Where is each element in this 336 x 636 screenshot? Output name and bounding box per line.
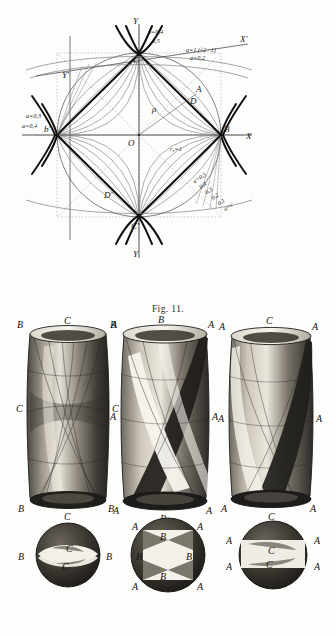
model-right-bot-label-2: A bbox=[309, 503, 317, 514]
model-left-top-bore bbox=[41, 330, 95, 341]
model-right-top-label-0: A bbox=[218, 321, 226, 332]
figure-11: Y Y X X' Y' O C C' B b' A D D' ρ r₀=1 bbox=[0, 8, 336, 308]
label-point-b-left: b' bbox=[44, 124, 52, 134]
label-point-b-right: B bbox=[224, 124, 230, 134]
model-right bbox=[229, 327, 313, 507]
figure-12: B C B C C B C B bbox=[0, 312, 336, 632]
inset-center-label-7: A bbox=[196, 581, 204, 592]
model-right-mid-label-1: A bbox=[315, 413, 323, 424]
figure-11-drawing: Y Y X X' Y' O C C' B b' A D D' ρ r₀=1 bbox=[0, 8, 336, 308]
inset-right-label-5: A bbox=[313, 561, 321, 572]
inset-right-label-3: A bbox=[313, 535, 321, 546]
annotation-left-a1: a=0,3 bbox=[26, 112, 41, 119]
curve-family-label-stack: a=0,5 0,4 0,3 0,2 0,1 a=c bbox=[192, 168, 234, 217]
inset-right-label-0: A bbox=[225, 535, 233, 546]
model-center-bot-label-0: A bbox=[112, 505, 120, 516]
inset-center-label-2: A bbox=[196, 521, 204, 532]
annotation-left-a2: a=0,4 bbox=[22, 122, 37, 129]
inset-center-label-1: B bbox=[160, 531, 166, 542]
inset-center-label-3: B bbox=[136, 551, 142, 562]
model-center-top-label-2: A bbox=[207, 319, 215, 330]
model-center bbox=[121, 325, 209, 510]
annotation-r0: r₀=1 bbox=[170, 145, 182, 152]
label-axis-x-right: X bbox=[245, 131, 252, 141]
model-left-top-label-0: B bbox=[17, 319, 23, 330]
model-left bbox=[27, 326, 109, 509]
inset-center-label-4: B bbox=[186, 551, 192, 562]
label-rho: ρ bbox=[151, 104, 157, 114]
figure-12-drawing: B C B C C B C B bbox=[0, 312, 336, 632]
plate-page: • o o • bbox=[0, 0, 336, 636]
model-right-mid-label-0: A bbox=[217, 413, 225, 424]
rho-segment bbox=[139, 94, 196, 135]
model-center-top-label-0: A bbox=[110, 319, 118, 330]
model-right-top-bore bbox=[243, 332, 299, 343]
inset-left-label-1: C bbox=[66, 543, 73, 554]
label-point-a-upper: A bbox=[195, 84, 202, 94]
label-point-c-top: C bbox=[133, 55, 140, 65]
label-axis-y-prime: Y' bbox=[62, 70, 70, 80]
inset-right-label-2: C bbox=[266, 559, 273, 570]
label-axis-x-prime: X' bbox=[239, 34, 248, 44]
inset-right-label-1: C bbox=[268, 545, 275, 556]
annotation-upper-a: a=0,2 bbox=[190, 54, 205, 61]
model-right-bot-label-1: C bbox=[268, 511, 275, 522]
inset-center-label-6: B bbox=[160, 571, 166, 582]
model-left-bottom-bore bbox=[42, 493, 94, 503]
label-point-d-right: D bbox=[189, 96, 197, 106]
model-right-bot-label-0: A bbox=[220, 503, 228, 514]
annotation-top-a1: a=0,4 bbox=[148, 28, 163, 35]
inset-left-label-2: C bbox=[62, 561, 69, 572]
inset-left-label-0: B bbox=[18, 551, 24, 562]
model-left-mid-label-0: C bbox=[16, 403, 23, 414]
model-center-bot-label-2: A bbox=[205, 505, 213, 516]
model-left-bot-label-1: C bbox=[64, 511, 71, 522]
header-text: • o o • bbox=[8, 0, 45, 2]
model-center-bottom-bore bbox=[136, 494, 194, 505]
inset-center-label-5: A bbox=[131, 581, 139, 592]
label-axis-y-bottom: Y bbox=[133, 249, 139, 259]
label-origin: O bbox=[128, 138, 135, 148]
model-left-bot-label-0: B bbox=[18, 503, 24, 514]
model-left-top-label-1: C bbox=[64, 315, 71, 326]
inset-left-label-3: B bbox=[106, 551, 112, 562]
inset-right-label-4: A bbox=[225, 561, 233, 572]
inset-left bbox=[36, 523, 100, 587]
label-axis-y-top: Y bbox=[133, 16, 139, 26]
model-right-bottom-bore bbox=[244, 492, 298, 502]
model-center-top-label-1: B bbox=[158, 314, 164, 325]
model-right-top-label-2: A bbox=[311, 321, 319, 332]
inset-center-label-0: A bbox=[131, 521, 139, 532]
model-center-top-bore bbox=[135, 330, 195, 341]
model-right-top-label-1: C bbox=[266, 315, 273, 326]
annotation-upper-formula: a=1 (√2−1) bbox=[186, 46, 216, 54]
annotation-top-a2: 0,5 bbox=[152, 37, 160, 44]
model-center-mid-label-0: A bbox=[109, 411, 117, 422]
label-point-c-bottom: C' bbox=[131, 221, 140, 231]
label-point-d-left: D' bbox=[103, 190, 113, 200]
